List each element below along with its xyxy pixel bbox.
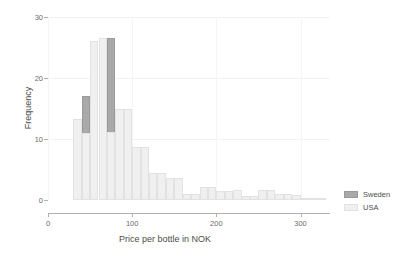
bar-usa: [149, 173, 157, 200]
bar-usa: [124, 109, 132, 200]
y-tick: [44, 78, 48, 79]
plot-area: [48, 17, 330, 200]
bar-usa: [292, 195, 300, 200]
bar-usa: [284, 194, 292, 200]
gridline-x: [48, 17, 49, 200]
x-tick: [132, 213, 133, 217]
bar-usa: [141, 147, 149, 200]
y-axis-title: Frequency: [23, 87, 33, 130]
bar-usa: [242, 196, 250, 200]
gridline-x: [216, 17, 217, 200]
y-tick-label: 20: [3, 74, 43, 83]
bar-usa: [82, 133, 90, 200]
bar-usa: [258, 190, 266, 200]
x-tick-label: 200: [196, 219, 236, 228]
bar-usa: [317, 198, 325, 200]
legend-swatch-usa: [344, 204, 358, 211]
bar-usa: [90, 41, 98, 200]
bar-usa: [200, 187, 208, 200]
x-tick: [216, 213, 217, 217]
y-tick: [44, 200, 48, 201]
legend-swatch-sweden: [344, 191, 358, 198]
bar-usa: [166, 178, 174, 200]
gridline-x: [301, 17, 302, 200]
bar-usa: [174, 178, 182, 200]
x-axis-line: [48, 213, 330, 214]
bar-usa: [157, 173, 165, 200]
gridline-y: [48, 17, 330, 18]
x-tick-label: 0: [28, 219, 68, 228]
bar-usa: [225, 191, 233, 200]
histogram-figure: Frequency 01020300100200300 Price per bo…: [0, 0, 403, 255]
bar-usa: [115, 109, 123, 200]
bar-usa: [132, 147, 140, 200]
legend-label-sweden: Sweden: [363, 190, 390, 199]
y-tick-label: 10: [3, 135, 43, 144]
y-tick-label: 30: [3, 13, 43, 22]
legend-label-usa: USA: [363, 203, 378, 212]
bar-usa: [267, 190, 275, 200]
y-tick: [44, 17, 48, 18]
bar-usa: [250, 196, 258, 200]
bar-usa: [233, 190, 241, 200]
y-tick-label: 0: [3, 196, 43, 205]
bar-usa: [73, 119, 81, 200]
legend-item-usa[interactable]: USA: [344, 203, 390, 212]
bar-usa: [309, 198, 317, 200]
x-tick-label: 300: [281, 219, 321, 228]
x-tick-label: 100: [112, 219, 152, 228]
bar-usa: [191, 194, 199, 200]
legend-item-sweden[interactable]: Sweden: [344, 190, 390, 199]
y-tick: [44, 139, 48, 140]
x-tick: [301, 213, 302, 217]
bar-usa: [208, 187, 216, 200]
bar-usa: [99, 38, 107, 200]
bar-usa: [183, 194, 191, 200]
bar-usa: [301, 198, 309, 200]
bar-usa: [107, 132, 115, 200]
bar-usa: [216, 191, 224, 200]
chart-legend: Sweden USA: [344, 190, 390, 216]
bar-usa: [275, 194, 283, 200]
x-tick: [48, 213, 49, 217]
x-axis-title: Price per bottle in NOK: [0, 234, 403, 244]
